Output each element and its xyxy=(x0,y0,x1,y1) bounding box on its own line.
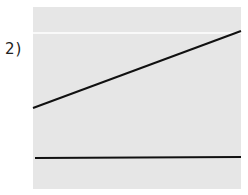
diagram-panel xyxy=(0,0,248,195)
horizontal-line xyxy=(35,157,241,158)
panel-background xyxy=(33,7,241,189)
